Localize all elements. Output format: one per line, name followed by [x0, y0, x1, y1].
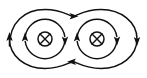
magnetic-field-figure: Magnetic field lines of two parallel con…: [0, 0, 147, 78]
field-line-diagram: [0, 0, 147, 78]
right-inner-left-arrow-icon: [74, 33, 80, 42]
left-conductor-into-page-icon: [38, 32, 52, 46]
left-inner-right-arrow-icon: [62, 37, 68, 46]
left-inner-left-arrow-icon: [22, 33, 28, 42]
right-inner-right-arrow-icon: [114, 37, 120, 46]
right-conductor-into-page-icon: [90, 32, 104, 46]
